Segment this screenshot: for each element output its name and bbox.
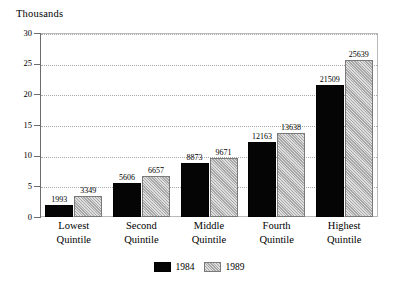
y-axis-tick-label: 30 bbox=[8, 29, 32, 38]
category-label-line: Highest bbox=[302, 219, 386, 233]
bar-value-label: 1993 bbox=[39, 195, 79, 204]
chart-legend: 19841989 bbox=[0, 262, 398, 272]
bar-value-label: 13638 bbox=[271, 123, 311, 132]
bar-chart-figure: Thousands 051015202530 19933349560666578… bbox=[0, 0, 398, 296]
bar-1989-1[interactable] bbox=[74, 196, 102, 217]
legend-label-1989: 1989 bbox=[226, 262, 245, 272]
bar-1984-5[interactable] bbox=[316, 85, 344, 217]
bar-1989-4[interactable] bbox=[277, 133, 305, 217]
bar-1984-1[interactable] bbox=[45, 205, 73, 217]
y-axis-tick-label: 0 bbox=[8, 213, 32, 222]
y-axis-tick-label: 10 bbox=[8, 151, 32, 160]
bar-group: 88739671 bbox=[181, 33, 238, 217]
y-axis-tick-label: 15 bbox=[8, 121, 32, 130]
y-axis-tick-label: 5 bbox=[8, 182, 32, 191]
y-axis-tick bbox=[34, 217, 40, 218]
bars-layer: 1993334956066657887396711216313638215092… bbox=[40, 33, 378, 217]
unit-title: Thousands bbox=[16, 8, 63, 20]
bar-1984-4[interactable] bbox=[248, 142, 276, 217]
legend-item-1984[interactable]: 1984 bbox=[154, 262, 195, 272]
y-axis-tick-label: 20 bbox=[8, 90, 32, 99]
y-axis-tick-label: 25 bbox=[8, 59, 32, 68]
bar-value-label: 25639 bbox=[339, 50, 379, 59]
bar-value-label: 3349 bbox=[68, 186, 108, 195]
bar-value-label: 9671 bbox=[204, 148, 244, 157]
bar-1989-5[interactable] bbox=[345, 60, 373, 217]
bar-group: 1216313638 bbox=[248, 33, 305, 217]
category-label-line: Quintile bbox=[302, 233, 386, 247]
bar-1984-3[interactable] bbox=[181, 163, 209, 217]
bar-value-label: 21509 bbox=[310, 75, 350, 84]
x-axis-category-labels: LowestQuintileSecondQuintileMiddleQuinti… bbox=[40, 219, 378, 255]
legend-swatch-1989 bbox=[204, 262, 221, 272]
category-label-5: HighestQuintile bbox=[302, 219, 386, 246]
bar-1984-2[interactable] bbox=[113, 183, 141, 217]
bar-value-label: 12163 bbox=[242, 132, 282, 141]
bar-value-label: 6657 bbox=[136, 166, 176, 175]
legend-label-1984: 1984 bbox=[176, 262, 195, 272]
bar-group: 56066657 bbox=[113, 33, 170, 217]
legend-swatch-1984 bbox=[154, 262, 171, 272]
bar-group: 19933349 bbox=[45, 33, 102, 217]
bar-group: 2150925639 bbox=[316, 33, 373, 217]
legend-item-1989[interactable]: 1989 bbox=[204, 262, 245, 272]
bar-1989-2[interactable] bbox=[142, 176, 170, 217]
bar-1989-3[interactable] bbox=[210, 158, 238, 217]
